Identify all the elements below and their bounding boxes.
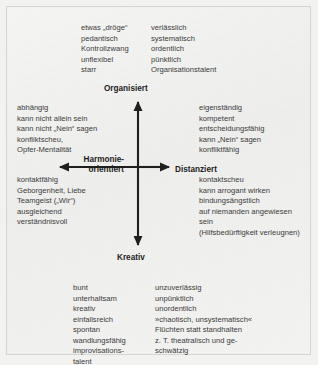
term-line: Teamgeist („Wir“) xyxy=(17,196,86,207)
term-line: bunt xyxy=(73,283,126,294)
term-line: talent xyxy=(73,357,126,365)
term-list-kreativ-positive: buntunterhaltsamkreativeinfallsreichspon… xyxy=(73,283,126,365)
term-line: kompetent xyxy=(199,114,264,125)
axis-label-harmonie-line1: Harmonie- xyxy=(62,155,124,165)
term-line: kreativ xyxy=(73,304,126,315)
term-line: unpünktlich xyxy=(155,294,252,305)
axis-label-harmonie-line2: orientiert xyxy=(62,165,124,175)
axis-label-organisiert: Organisiert xyxy=(104,84,148,94)
term-line: »chaotisch, unsystematisch« xyxy=(155,315,252,326)
term-line: eigenständig xyxy=(199,103,264,114)
term-line: unterhaltsam xyxy=(73,294,126,305)
term-line: improvisations- xyxy=(73,346,126,357)
term-line: Kontrollzwang xyxy=(81,44,129,55)
term-line: systematisch xyxy=(151,34,216,45)
term-line: sein xyxy=(199,217,300,228)
term-line: kann nicht allein sein xyxy=(17,114,97,125)
term-line: verlässlich xyxy=(151,23,216,34)
term-line: bindungsängstlich xyxy=(199,196,300,207)
term-line: z. T. theatralisch und ge- xyxy=(155,336,252,347)
term-line: auf niemanden angewiesen xyxy=(199,207,300,218)
term-list-distanziert-positive: eigenständigkompetententscheidungsfähigk… xyxy=(199,103,264,156)
term-line: unordentlich xyxy=(155,304,252,315)
axis-label-harmonie-orientiert: Harmonie- orientiert xyxy=(62,155,124,175)
term-line: Organisationstalent xyxy=(151,65,216,76)
term-list-harmonie-negative: abhängigkann nicht allein seinkann nicht… xyxy=(17,103,97,156)
term-line: Geborgenheit, Liebe xyxy=(17,186,86,197)
term-line: entscheidungsfähig xyxy=(199,124,264,135)
term-line: Flüchten statt standhalten xyxy=(155,325,252,336)
term-line: verständnisvoll xyxy=(17,217,86,228)
axis-label-kreativ: Kreativ xyxy=(117,253,145,263)
term-line: unzuverlässig xyxy=(155,283,252,294)
term-line: konfliktscheu, xyxy=(17,135,97,146)
term-list-organisiert-negative: etwas „dröge“pedantischKontrollzwangunfl… xyxy=(81,23,129,76)
term-line: unflexibel xyxy=(81,55,129,66)
term-line: (Hilfsbedürftigkeit verleugnen) xyxy=(199,228,300,239)
axis-label-distanziert: Distanziert xyxy=(175,165,217,175)
term-line: etwas „dröge“ xyxy=(81,23,129,34)
term-list-kreativ-negative: unzuverlässigunpünktlichunordentlich»cha… xyxy=(155,283,252,357)
term-line: pünktlich xyxy=(151,55,216,66)
term-line: kann nicht „Nein“ sagen xyxy=(17,124,97,135)
term-line: kontaktfähig xyxy=(17,175,86,186)
term-line: starr xyxy=(81,65,129,76)
quadrant-diagram: Organisiert Kreativ Distanziert Harmonie… xyxy=(6,6,311,355)
term-line: schwätzig xyxy=(155,346,252,357)
term-line: wandlungsfähig xyxy=(73,336,126,347)
term-line: einfallsreich xyxy=(73,315,126,326)
term-list-harmonie-positive: kontaktfähigGeborgenheit, LiebeTeamgeist… xyxy=(17,175,86,228)
term-line: kann arrogant wirken xyxy=(199,186,300,197)
term-line: konfliktfähig xyxy=(199,145,264,156)
term-line: kontaktscheu xyxy=(199,175,300,186)
term-line: Opfer-Mentalität xyxy=(17,145,97,156)
term-list-distanziert-negative: kontaktscheukann arrogant wirkenbindungs… xyxy=(199,175,300,238)
term-line: kann „Nein“ sagen xyxy=(199,135,264,146)
term-line: pedantisch xyxy=(81,34,129,45)
term-line: spontan xyxy=(73,325,126,336)
term-line: abhängig xyxy=(17,103,97,114)
term-line: ordentlich xyxy=(151,44,216,55)
term-line: ausgleichend xyxy=(17,207,86,218)
term-list-organisiert-positive: verlässlichsystematischordentlichpünktli… xyxy=(151,23,216,76)
